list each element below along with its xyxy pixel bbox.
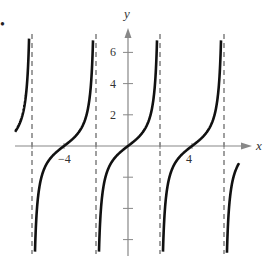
bullet-marker: • (0, 17, 5, 32)
y-axis-label: y (122, 6, 130, 21)
x-tick-label: 4 (186, 152, 192, 166)
y-tick-label: 2 (110, 108, 116, 122)
x-tick-label: −4 (58, 152, 71, 166)
axes: x y (15, 6, 262, 256)
tangent-branch (15, 39, 29, 132)
tangent-graph: • x y −44246 (0, 0, 265, 258)
tangent-branch (227, 163, 239, 253)
y-axis-arrow-icon (125, 28, 132, 38)
y-tick-label: 6 (110, 45, 116, 59)
x-axis-arrow-icon (241, 143, 252, 150)
x-axis-label: x (255, 138, 262, 153)
y-tick-label: 4 (110, 77, 116, 91)
